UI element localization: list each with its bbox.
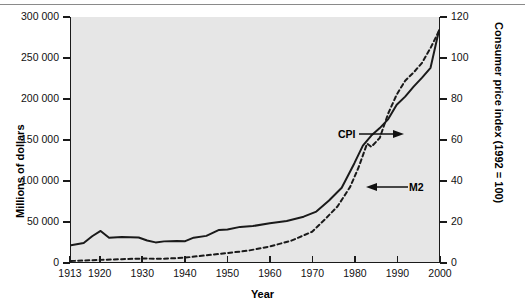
- top-divider: [0, 4, 525, 5]
- y-tick-right-1: [440, 221, 447, 223]
- x-tick-8: [397, 256, 399, 263]
- x-tick-2: [141, 256, 143, 263]
- y-tick-label-left-5: 250 000: [0, 52, 59, 63]
- y-tick-label-left-3: 150 000: [0, 134, 59, 145]
- y-tick-right-5: [440, 57, 447, 59]
- x-tick-label-1: 1920: [78, 268, 122, 279]
- x-tick-9: [439, 256, 441, 263]
- x-tick-1: [99, 256, 101, 263]
- x-axis-title: Year: [0, 288, 525, 300]
- annotation-cpi-arrow: [357, 127, 405, 141]
- y-tick-right-6: [440, 16, 447, 18]
- y-tick-label-right-2: 40: [451, 175, 463, 186]
- annotation-cpi-label: CPI: [338, 128, 356, 140]
- x-tick-label-5: 1960: [248, 268, 292, 279]
- y-tick-label-right-6: 120: [451, 11, 469, 22]
- y-tick-right-2: [440, 180, 447, 182]
- y-tick-label-left-4: 200 000: [0, 93, 59, 104]
- y-tick-label-right-4: 80: [451, 93, 463, 104]
- annotation-m2-arrow: [366, 180, 410, 194]
- x-tick-label-4: 1950: [205, 268, 249, 279]
- y-tick-left-3: [63, 139, 70, 141]
- y-tick-label-left-6: 300 000: [0, 11, 59, 22]
- y-tick-right-4: [440, 98, 447, 100]
- x-tick-0: [69, 256, 71, 263]
- y-tick-label-left-0: 0: [0, 257, 59, 268]
- y-tick-label-left-1: 50 000: [0, 216, 59, 227]
- y-tick-left-6: [63, 16, 70, 18]
- y-tick-label-right-3: 60: [451, 134, 463, 145]
- x-tick-label-8: 1990: [375, 268, 419, 279]
- chart-figure: Millions of dollars Consumer price index…: [0, 0, 525, 303]
- y-tick-label-right-5: 100: [451, 52, 469, 63]
- y-tick-right-3: [440, 139, 447, 141]
- y-tick-left-2: [63, 180, 70, 182]
- x-tick-label-6: 1970: [290, 268, 334, 279]
- x-tick-label-2: 1930: [120, 268, 164, 279]
- y-tick-left-5: [63, 57, 70, 59]
- x-tick-label-9: 2000: [418, 268, 462, 279]
- y-tick-label-right-1: 20: [451, 216, 463, 227]
- x-tick-7: [354, 256, 356, 263]
- x-tick-4: [227, 256, 229, 263]
- y-tick-right-0: [440, 262, 447, 264]
- x-tick-label-7: 1980: [333, 268, 377, 279]
- x-tick-6: [312, 256, 314, 263]
- y-axis-title-right: Consumer price index (1992 = 100): [493, 22, 505, 203]
- annotation-m2-label: M2: [409, 181, 424, 193]
- y-tick-left-1: [63, 221, 70, 223]
- y-tick-label-left-2: 100 000: [0, 175, 59, 186]
- y-tick-left-4: [63, 98, 70, 100]
- x-tick-5: [269, 256, 271, 263]
- x-tick-label-3: 1940: [163, 268, 207, 279]
- x-tick-3: [184, 256, 186, 263]
